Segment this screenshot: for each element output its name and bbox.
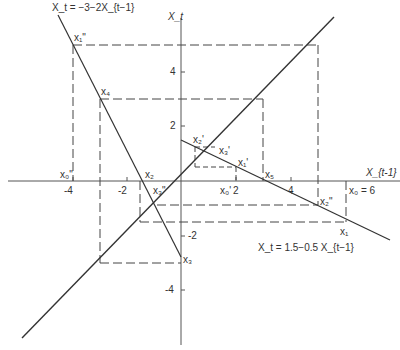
x-tick-label: 2 [233,186,239,196]
equation-steep: X_t = −3−2X_{t−1} [52,3,134,13]
point-label-x0pp: x₀" [60,170,73,180]
point-label-x5: x₅ [265,170,274,180]
point-label-x1pp: x₁" [74,33,86,43]
point-label-x3p: x₃' [219,146,230,156]
point-label-x3: x₃ [183,255,192,265]
y-axis-label: X_t [168,12,183,22]
point-label-x0-equals-6: x₀ = 6 [349,186,375,196]
point-label-x4: x₄ [101,87,110,97]
line-steep-equation [58,15,181,257]
x-tick-label: -2 [118,186,127,196]
point-label-x1: x₁ [340,227,348,237]
point-label-x2: x₂ [145,170,154,180]
x-tick-label: -4 [64,186,73,196]
x-axis-label: X_{t-1} [366,168,397,178]
point-label-x2pp: x₂" [320,197,332,207]
cobweb-diagram: X_t = −3−2X_{t−1} X_t = 1.5−0.5 X_{t−1} … [0,0,400,350]
y-tick-label: 4 [170,67,176,77]
point-label-x0p: x₀' [220,186,231,196]
y-tick-label: 2 [170,121,176,131]
x-tick-label: 4 [288,186,294,196]
point-label-x1p: x₁' [238,158,248,168]
point-label-x2p: x₂' [193,135,204,145]
equation-flat: X_t = 1.5−0.5 X_{t−1} [258,243,354,253]
y-tick-label: -4 [165,285,174,295]
point-label-x3pp: x₃" [153,186,166,196]
y-tick-label: -2 [188,231,197,241]
